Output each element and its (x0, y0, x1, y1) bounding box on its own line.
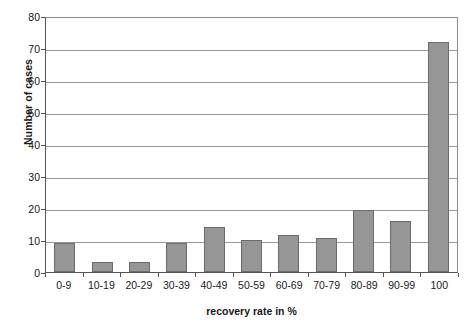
x-axis-tick-mark (270, 273, 271, 277)
y-axis-tick-label: 70 (14, 44, 40, 54)
y-axis-tick-label: 40 (14, 140, 40, 150)
x-axis-tick-label: 50-59 (233, 279, 271, 291)
bar (278, 235, 299, 272)
bar-slot (308, 18, 345, 272)
bar (54, 243, 75, 272)
bar (92, 262, 113, 272)
bar-slot (83, 18, 120, 272)
y-axis-tick-label: 80 (14, 12, 40, 22)
y-axis-tick-label: 20 (14, 204, 40, 214)
y-axis-tick-label: 10 (14, 236, 40, 246)
x-axis-tick-marks (45, 273, 458, 278)
x-axis-tick-label: 90-99 (383, 279, 421, 291)
bar (204, 227, 225, 272)
x-axis-tick-label: 100 (420, 279, 458, 291)
x-axis-title: recovery rate in % (45, 305, 458, 317)
y-axis-tick-label: 50 (14, 108, 40, 118)
x-axis-tick-label: 0-9 (45, 279, 83, 291)
x-axis-tick-mark (45, 273, 46, 277)
x-axis-tick-mark (158, 273, 159, 277)
bar (166, 243, 187, 272)
bar (390, 221, 411, 272)
x-axis-tick-label: 40-49 (195, 279, 233, 291)
bar (428, 42, 449, 272)
bar-slot (195, 18, 232, 272)
bar (353, 210, 374, 272)
x-axis-tick-label: 80-89 (345, 279, 383, 291)
y-axis-tick-mark (41, 209, 45, 210)
x-axis-tick-mark (83, 273, 84, 277)
y-axis-tick-mark (41, 241, 45, 242)
bar-slot (233, 18, 270, 272)
x-axis-tick-label: 10-19 (83, 279, 121, 291)
y-axis-tick-mark (41, 17, 45, 18)
bar-slot (345, 18, 382, 272)
bar (316, 238, 337, 272)
bar-slot (121, 18, 158, 272)
x-axis-tick-label: 60-69 (270, 279, 308, 291)
x-axis-tick-label: 30-39 (158, 279, 196, 291)
y-axis-tick-labels: 01020304050607080 (14, 17, 40, 273)
bar (241, 240, 262, 272)
x-axis-tick-mark (195, 273, 196, 277)
x-axis-tick-mark (233, 273, 234, 277)
histogram-chart: Number of cases 01020304050607080 0-910-… (0, 0, 472, 333)
x-axis-tick-labels: 0-910-1920-2930-3940-4950-5960-6970-7980… (45, 279, 458, 291)
x-axis-tick-mark (420, 273, 421, 277)
x-axis-tick-mark (345, 273, 346, 277)
bar-slot (420, 18, 457, 272)
bar-slot (46, 18, 83, 272)
bar-slot (158, 18, 195, 272)
y-axis-tick-mark (41, 49, 45, 50)
y-axis-tick-label: 0 (14, 268, 40, 278)
bars-layer (46, 18, 457, 272)
bar-slot (382, 18, 419, 272)
x-axis-tick-mark (120, 273, 121, 277)
x-axis-tick-mark (383, 273, 384, 277)
bar (129, 262, 150, 272)
y-axis-tick-mark (41, 113, 45, 114)
y-axis-tick-mark (41, 145, 45, 146)
plot-area (45, 17, 458, 273)
y-axis-tick-label: 30 (14, 172, 40, 182)
x-axis-tick-label: 70-79 (308, 279, 346, 291)
x-axis-tick-mark (458, 273, 459, 277)
x-axis-tick-mark (308, 273, 309, 277)
y-axis-tick-mark (41, 177, 45, 178)
y-axis-tick-mark (41, 81, 45, 82)
y-axis-tick-label: 60 (14, 76, 40, 86)
y-axis-tick-mark (41, 273, 45, 274)
x-axis-tick-label: 20-29 (120, 279, 158, 291)
bar-slot (270, 18, 307, 272)
